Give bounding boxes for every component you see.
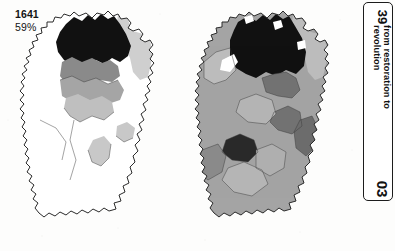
running-head: from restoration to revolution (364, 25, 392, 175)
map-landmass-1688 (178, 0, 358, 251)
ireland-map-1688 (178, 0, 358, 251)
page-marker-tab: 39 from restoration to revolution 03 (363, 2, 393, 201)
map-figure-1641: 1641 59% (0, 0, 190, 251)
map-figure-1688: 1688 22% (178, 0, 358, 251)
ireland-map-1641 (0, 0, 190, 251)
scanned-page: 1641 59% (0, 0, 395, 251)
map-landmass-1641 (0, 0, 190, 251)
folio-number-bottom: 03 (374, 174, 391, 201)
running-head-line-2: revolution (371, 25, 381, 175)
running-head-line-1: from restoration to (382, 25, 392, 175)
